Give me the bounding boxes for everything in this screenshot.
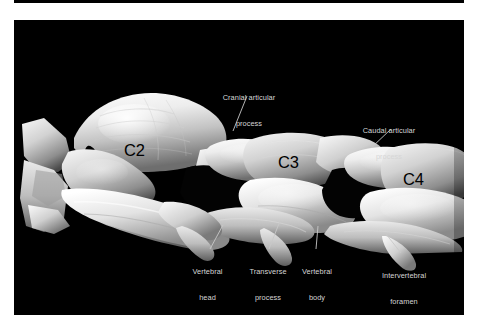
top-rule-divider bbox=[14, 0, 464, 3]
photo-plate: C2 C3 C4 Cranial articular process Cauda… bbox=[14, 20, 464, 315]
vertebrae-specimen-image bbox=[14, 20, 464, 315]
anatomical-figure: C2 C3 C4 Cranial articular process Cauda… bbox=[0, 0, 478, 331]
